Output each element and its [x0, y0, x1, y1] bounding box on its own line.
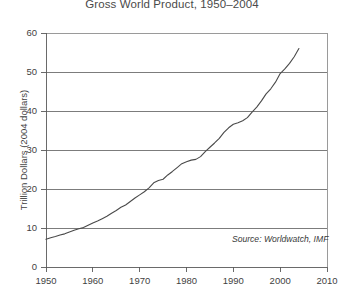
x-tick-label-1980: 1980	[176, 275, 197, 286]
y-tick-label-30: 30	[26, 144, 37, 155]
y-tick-label-40: 40	[26, 105, 37, 116]
series-line-0	[46, 49, 299, 240]
data-series-gross-world-product	[46, 49, 299, 240]
y-tick-label-20: 20	[26, 183, 37, 194]
x-tick-label-1950: 1950	[35, 275, 56, 286]
y-tick-labels: 0102030405060	[26, 27, 37, 272]
y-tick-label-50: 50	[26, 66, 37, 77]
y-tick-marks	[41, 33, 46, 267]
x-tick-label-1990: 1990	[223, 275, 244, 286]
grid-lines	[46, 72, 327, 228]
x-tick-label-1960: 1960	[82, 275, 103, 286]
plot-area: 0102030405060 19501960197019801990200020…	[0, 0, 344, 294]
y-tick-label-60: 60	[26, 27, 37, 38]
x-tick-label-1970: 1970	[129, 275, 150, 286]
source-note: Source: Worldwatch, IMF	[232, 234, 329, 244]
x-tick-label-2010: 2010	[316, 275, 337, 286]
annotation-layer: Source: Worldwatch, IMF	[232, 234, 329, 244]
y-tick-label-10: 10	[26, 222, 37, 233]
x-tick-labels: 1950196019701980199020002010	[35, 275, 337, 286]
y-tick-label-0: 0	[32, 261, 37, 272]
x-tick-marks	[46, 267, 327, 272]
chart-container: Gross World Product, 1950–2004 Trillion …	[0, 0, 344, 294]
x-tick-label-2000: 2000	[270, 275, 291, 286]
